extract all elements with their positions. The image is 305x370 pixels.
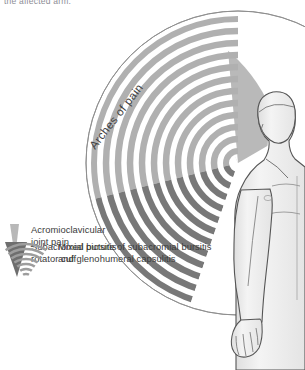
illustration-stage: the affected arm. <box>0 0 305 370</box>
legend-label-mixed-picture: Mixed picture of subacromial bursitis an… <box>58 241 211 266</box>
legend-line-1: Acromioclavicular <box>31 224 105 236</box>
legend-line-1: Mixed picture of subacromial bursitis <box>58 241 211 253</box>
legend-line-2: and glenohumeral capsulitis <box>58 253 211 265</box>
legend: Acromioclavicular joint pain Subacromial… <box>0 222 305 239</box>
marker-striped-fan-wedge <box>0 239 52 281</box>
arches-of-pain-diagram: Arches of pain <box>0 0 305 370</box>
